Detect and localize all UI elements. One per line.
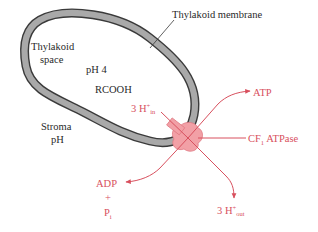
membrane-label: Thylakoid membrane	[172, 9, 262, 20]
atp-label: ATP	[253, 87, 272, 98]
h-out-label: 3 H+out	[217, 204, 245, 217]
stroma-label-1: Stroma	[41, 121, 72, 132]
stroma-label-2: pH	[51, 134, 64, 145]
thylakoid-space-label-1: Thylakoid	[31, 41, 75, 52]
rcooh-label: RCOOH	[95, 84, 132, 95]
adp-label: ADP	[96, 178, 117, 189]
thylakoid-diagram: Thylakoid membrane Thylakoid space pH 4 …	[0, 0, 318, 232]
h-in-label: 3 H+in	[131, 102, 156, 115]
cf1-atpase-label: CF1 ATPase	[248, 133, 299, 146]
pi-label: Pi	[104, 207, 112, 220]
thylakoid-space-label-2: space	[40, 54, 64, 65]
plus-label: +	[105, 192, 111, 203]
ph-inside-label: pH 4	[86, 64, 107, 75]
